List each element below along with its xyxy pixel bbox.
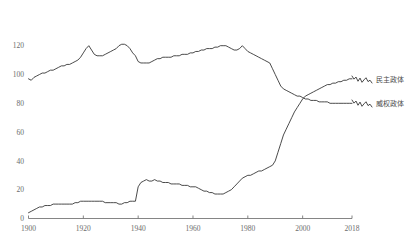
x-tick-label: 2000 <box>295 224 310 233</box>
x-tick-label: 2018 <box>345 224 360 233</box>
x-axis <box>29 216 353 219</box>
legend-label-1: 民主政体 <box>376 75 404 84</box>
series-line-1 <box>29 79 353 213</box>
y-tick-label: 40 <box>17 157 25 166</box>
line-chart: 020406080100120 190019201940196019802000… <box>0 0 412 251</box>
legend-label-2: 威权政体 <box>376 99 404 108</box>
y-tick-label: 100 <box>13 70 25 79</box>
x-tick-label: 1900 <box>21 224 36 233</box>
chart-container: 020406080100120 190019201940196019802000… <box>0 0 412 251</box>
y-axis-tick-labels: 020406080100120 <box>13 41 25 223</box>
legend-swatch-2 <box>352 100 372 107</box>
legend-swatch-1 <box>352 76 372 83</box>
x-tick-label: 1940 <box>131 224 146 233</box>
y-tick-label: 60 <box>17 128 25 137</box>
x-tick-label: 1920 <box>76 224 91 233</box>
x-axis-tick-labels: 1900192019401960198020002018 <box>21 224 360 233</box>
data-series-group <box>29 44 353 212</box>
x-tick-label: 1980 <box>240 224 255 233</box>
y-tick-label: 0 <box>20 214 24 223</box>
y-tick-label: 20 <box>17 185 25 194</box>
chart-legend: 民主政体威权政体 <box>352 75 404 108</box>
y-tick-label: 120 <box>13 41 25 50</box>
y-tick-label: 80 <box>17 99 25 108</box>
x-tick-label: 1960 <box>185 224 200 233</box>
series-line-2 <box>29 44 353 103</box>
